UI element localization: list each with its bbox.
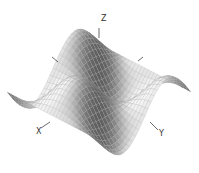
y-axis-label: Y <box>159 130 164 138</box>
surface-plot <box>0 0 199 173</box>
z-axis-label: Z <box>101 15 106 23</box>
x-axis-label: X <box>36 128 41 136</box>
